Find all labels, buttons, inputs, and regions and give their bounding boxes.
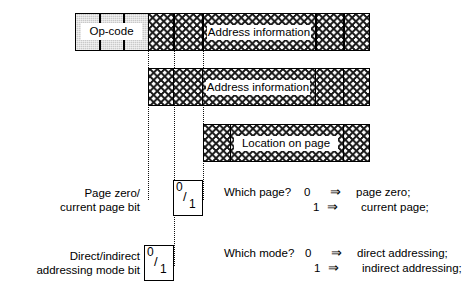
which-page-result-1: current page; [361,200,429,215]
instruction-format-diagram: Op-code Address information Address info… [0,0,474,293]
which-page-digit-0: 0 [304,185,310,200]
row2-divider-a [173,69,175,105]
row1-divider-a [148,14,150,50]
instruction-row-location: Location on page [203,124,370,162]
opcode-label-plate: Op-code [81,23,142,40]
which-page-digit-1: 1 [313,200,319,215]
addressing-mode-bit-value-0: 0 [147,246,154,258]
row1-divider-b [173,14,175,50]
row1-address-label-plate: Address information [207,25,311,40]
row1-address-label: Address information [208,27,310,39]
page-zero-bit-value-0: 0 [176,181,183,193]
row3-divider-b [343,125,345,161]
page-zero-bit-box: 0 / 1 [173,180,203,216]
instruction-row-address: Address information [148,68,370,106]
page-zero-bit-label-line2: current page bit [10,200,140,214]
which-mode-result-0: direct addressing; [357,246,448,261]
row3-divider-a [230,125,232,161]
which-page-question: Which page? [224,185,291,200]
row1-divider-e [343,14,345,50]
which-mode-digit-1: 1 [314,261,320,276]
row2-divider-d [343,69,345,105]
addressing-mode-bit-box: 0 / 1 [144,245,174,281]
row1-divider-d [315,14,317,50]
row1-divider-c [202,14,204,50]
addressing-mode-bit-label-line2: addressing mode bit [0,263,140,277]
addressing-mode-bit-label-line1: Direct/indirect [0,249,140,263]
which-mode-arrow-0: ⇒ [331,246,342,261]
page-zero-bit-slash: / [183,190,187,203]
addressing-mode-bit-label: Direct/indirect addressing mode bit [0,249,140,277]
which-mode-question: Which mode? [224,246,294,261]
page-zero-bit-label: Page zero/ current page bit [10,186,140,214]
which-page-arrow-1: ⇒ [327,200,338,215]
opcode-label: Op-code [89,26,133,38]
which-mode-result-1: indirect addressing; [362,261,462,276]
row2-address-label: Address information [207,82,309,94]
which-page-result-0: page zero; [356,185,410,200]
which-page-arrow-0: ⇒ [330,185,341,200]
row2-divider-b [202,69,204,105]
row2-address-label-plate: Address information [206,80,310,95]
row3-location-label: Location on page [242,138,330,150]
addressing-mode-bit-slash: / [154,255,158,268]
instruction-row-full: Op-code Address information [75,13,370,51]
which-mode-arrow-1: ⇒ [328,261,339,276]
guide-line-mode-bit-left [174,14,175,266]
which-mode-digit-0: 0 [305,246,311,261]
addressing-mode-bit-value-1: 1 [160,263,167,275]
page-zero-bit-label-line1: Page zero/ [10,186,140,200]
row3-location-label-plate: Location on page [234,136,338,151]
page-zero-bit-value-1: 1 [189,198,196,210]
row2-divider-c [315,69,317,105]
page-zero-bit-explanation: Which page? 0 ⇒ page zero; 1 ⇒ current p… [224,185,464,217]
addressing-mode-bit-explanation: Which mode? 0 ⇒ direct addressing; 1 ⇒ i… [224,246,474,278]
